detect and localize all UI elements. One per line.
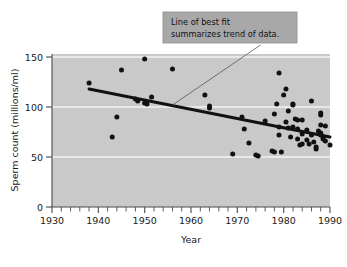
x-tick-label-1930: 1930 (40, 215, 64, 226)
data-point (256, 154, 261, 159)
annotation-line-2: summarizes trend of data. (171, 29, 279, 39)
y-tick-label-0: 0 (37, 202, 43, 213)
y-tick-label-100: 100 (25, 102, 43, 113)
scatter-chart: 150 100 50 0 (0, 0, 347, 267)
x-tick-label-1970: 1970 (225, 215, 249, 226)
data-point (110, 135, 115, 140)
data-point (87, 81, 92, 86)
data-point (318, 123, 323, 128)
data-point (300, 142, 305, 147)
x-tick-label-1990: 1990 (318, 215, 342, 226)
x-axis-title: Year (180, 234, 201, 245)
x-tick-label-1960: 1960 (179, 215, 203, 226)
data-point (272, 112, 277, 117)
data-point (286, 109, 291, 114)
data-point (283, 87, 288, 92)
data-point (114, 115, 119, 120)
data-point (300, 118, 305, 123)
x-tick-label-1980: 1980 (272, 215, 296, 226)
data-point (314, 147, 319, 152)
data-point (328, 143, 333, 148)
y-axis-title: Sperm count (millions/ml) (9, 69, 20, 192)
data-point (149, 95, 154, 100)
data-point (277, 71, 282, 76)
data-point (277, 133, 282, 138)
data-point (295, 118, 300, 123)
data-point (309, 99, 314, 104)
data-point (230, 152, 235, 157)
data-point (170, 67, 175, 72)
data-point (279, 150, 284, 155)
data-point (242, 127, 247, 132)
annotation-callout: Line of best fit summarizes trend of dat… (163, 12, 297, 43)
data-point (311, 140, 316, 145)
annotation-line-1: Line of best fit (171, 17, 231, 27)
data-point (323, 124, 328, 129)
data-point (290, 103, 295, 108)
data-point (202, 93, 207, 98)
data-point (142, 57, 147, 62)
data-point (295, 137, 300, 142)
data-point (281, 93, 286, 98)
data-point (307, 142, 312, 147)
data-point (288, 135, 293, 140)
y-tick-label-150: 150 (25, 52, 43, 63)
data-point (207, 106, 212, 111)
data-point (274, 102, 279, 107)
x-tick-label-1950: 1950 (133, 215, 157, 226)
data-point (272, 150, 277, 155)
data-point (318, 113, 323, 118)
data-point (323, 139, 328, 144)
y-tick-label-50: 50 (31, 152, 43, 163)
data-point (283, 120, 288, 125)
x-tick-label-1940: 1940 (86, 215, 110, 226)
chart-figure: 150 100 50 0 (0, 0, 347, 267)
data-point (119, 68, 124, 73)
data-point (246, 141, 251, 146)
